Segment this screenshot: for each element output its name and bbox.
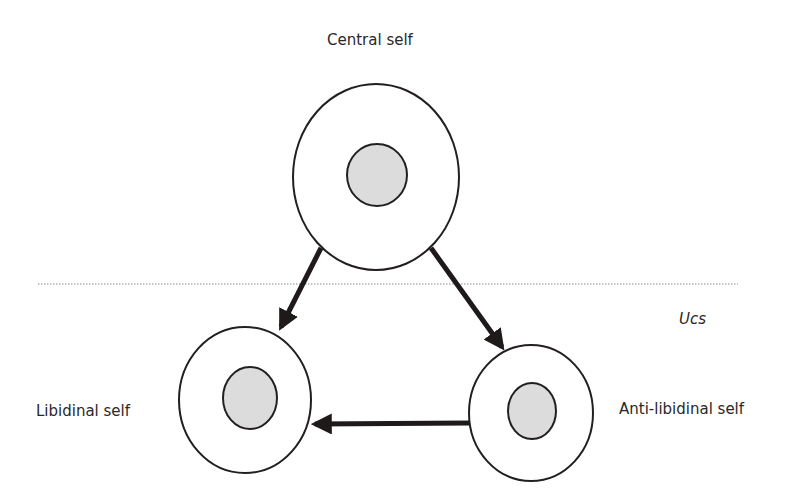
libidinal-self-label: Libidinal self xyxy=(36,404,130,419)
arrow-central-to-anti-libidinal xyxy=(431,248,502,347)
central-self-label: Central self xyxy=(327,33,413,48)
anti-libidinal-self-label: Anti-libidinal self xyxy=(619,402,744,417)
arrow-anti-libidinal-to-libidinal xyxy=(315,423,470,424)
unconscious-label: Ucs xyxy=(679,312,706,327)
libidinal-self-nucleus xyxy=(223,367,277,429)
libidinal-self-node xyxy=(179,327,311,473)
arrow-central-to-libidinal xyxy=(281,248,321,327)
diagram-graphic xyxy=(0,0,785,504)
anti-libidinal-self-node xyxy=(469,345,593,481)
central-self-node xyxy=(293,84,459,270)
central-self-nucleus xyxy=(347,144,407,206)
diagram-canvas: Central self Libidinal self Anti-libidin… xyxy=(0,0,785,504)
anti-libidinal-self-nucleus xyxy=(508,383,556,439)
